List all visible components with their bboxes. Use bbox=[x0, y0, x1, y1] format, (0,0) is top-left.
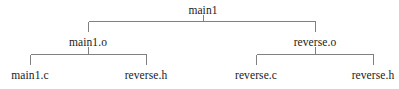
node-reverse-c: reverse.c bbox=[235, 69, 277, 81]
node-main1: main1 bbox=[188, 4, 217, 16]
node-reverse-h-left: reverse.h bbox=[125, 69, 168, 81]
node-main1-c: main1.c bbox=[11, 69, 48, 81]
node-main1-o: main1.o bbox=[69, 36, 107, 48]
node-reverse-h-right: reverse.h bbox=[352, 69, 395, 81]
node-reverse-o: reverse.o bbox=[294, 36, 337, 48]
dependency-tree-diagram: main1 main1.o reverse.o main1.c reverse.… bbox=[0, 0, 399, 89]
